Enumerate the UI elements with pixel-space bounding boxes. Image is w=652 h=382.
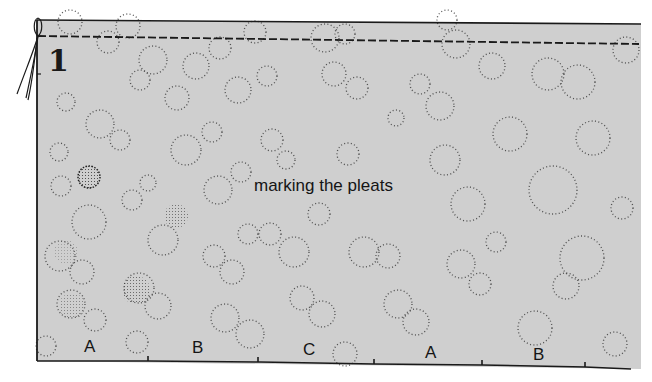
pleat-label-c: C — [303, 341, 315, 358]
pleat-label-a: A — [84, 338, 95, 355]
figure-number: 1 — [48, 46, 69, 76]
figure-caption: marking the pleats — [254, 176, 393, 196]
pleat-label-a-repeat: A — [425, 344, 436, 361]
pleat-label-b-repeat: B — [533, 346, 544, 363]
pleat-label-b: B — [192, 339, 203, 356]
pleat-diagram: 1 marking the pleats A B C A B — [0, 0, 652, 382]
